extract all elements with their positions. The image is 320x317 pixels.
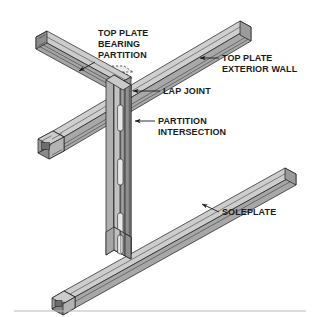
label-line: PARTITION xyxy=(158,116,207,126)
label-line: PARTITION xyxy=(98,50,147,60)
label-line: TOP PLATE xyxy=(98,28,148,38)
label-lap-joint: LAP JOINT xyxy=(163,86,211,96)
label-line: BEARING xyxy=(98,39,140,49)
isometric-scene: TOP PLATE BEARING PARTITION TOP PLATE EX… xyxy=(0,0,320,317)
label-line: EXTERIOR WALL xyxy=(222,64,298,74)
label-line: LAP JOINT xyxy=(163,86,211,96)
label-line: TOP PLATE xyxy=(222,53,272,63)
label-line: INTERSECTION xyxy=(158,127,226,137)
framing-diagram: TOP PLATE BEARING PARTITION TOP PLATE EX… xyxy=(0,0,320,317)
label-soleplate: SOLEPLATE xyxy=(222,207,276,217)
stud-knockouts xyxy=(118,105,123,239)
label-line: SOLEPLATE xyxy=(222,207,276,217)
